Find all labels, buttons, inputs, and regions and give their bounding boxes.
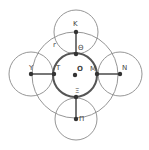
point-xi <box>74 95 78 99</box>
diagram-canvas: KΘYTMNΞΠOr <box>0 0 149 150</box>
point-y <box>29 72 33 76</box>
geometry-diagram: KΘYTMNΞΠOr <box>0 0 149 150</box>
label-y: Y <box>28 64 34 72</box>
point-theta <box>74 52 78 56</box>
label-t: T <box>55 64 61 72</box>
label-k: K <box>73 20 78 28</box>
label-m: M <box>90 65 96 73</box>
point-pi <box>74 117 78 121</box>
label-theta: Θ <box>78 44 84 52</box>
label-n: N <box>122 64 127 72</box>
point-center <box>73 73 77 77</box>
label-xi: Ξ <box>75 87 79 95</box>
point-k <box>74 30 78 34</box>
label-pi: Π <box>79 115 84 123</box>
point-n <box>118 72 122 76</box>
label-radius: r <box>53 41 56 49</box>
label-center: O <box>77 65 83 73</box>
point-t <box>52 72 56 76</box>
